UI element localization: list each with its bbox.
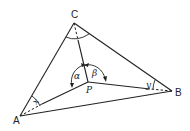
vertex-label-a: A [13,115,20,126]
angle-label-y: y [145,80,152,90]
geometry-diagram: C A B P α β x y [0,0,190,131]
vertex-label-p: P [85,85,93,95]
segment-bp [88,82,150,89]
angle-label-alpha: α [74,71,80,81]
angle-label-beta: β [91,68,97,78]
vertex-label-c: C [71,9,78,20]
arrowhead-alpha-end [70,83,74,88]
side-bc [74,23,172,91]
segment-ap [42,82,88,104]
arrowhead-beta-end [103,76,107,82]
angle-arc-y [153,80,155,89]
vertex-label-b: B [175,87,182,98]
